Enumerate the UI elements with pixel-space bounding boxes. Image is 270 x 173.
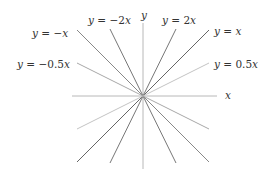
- label-y-eq-neg-0.5x: y = −0.5x: [16, 58, 70, 70]
- y-axis-label: y: [140, 9, 148, 21]
- label-y-eq-0.5x: y = 0.5x: [213, 58, 258, 70]
- line-slopes-diagram: x y y = 2xy = −2xy = xy = −xy = 0.5xy = …: [0, 0, 270, 173]
- label-y-eq-neg-x: y = −x: [31, 27, 68, 39]
- line-labels: y = 2xy = −2xy = xy = −xy = 0.5xy = −0.5…: [16, 14, 258, 70]
- label-y-eq-neg-2x: y = −2x: [87, 14, 131, 26]
- diagram-canvas: x y y = 2xy = −2xy = xy = −xy = 0.5xy = …: [0, 0, 270, 173]
- label-y-eq-2x: y = 2x: [161, 14, 196, 26]
- x-axis-label: x: [225, 89, 231, 101]
- axes: x y: [72, 9, 231, 169]
- label-y-eq-x: y = x: [213, 25, 241, 37]
